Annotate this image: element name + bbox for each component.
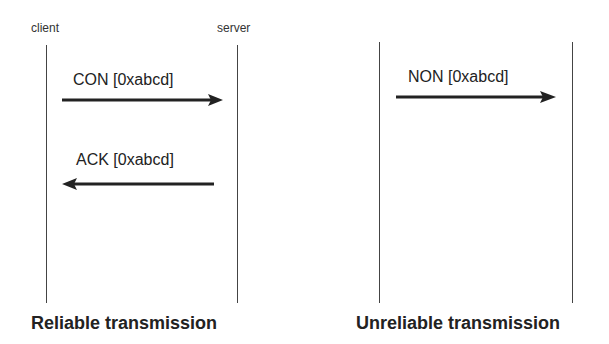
client-lifeline <box>46 45 47 303</box>
server-lifeline <box>237 45 238 303</box>
reliable-caption: Reliable transmission <box>31 313 217 334</box>
con-message-label: CON [0xabcd] <box>73 71 173 89</box>
right-arrow-icon <box>60 93 225 107</box>
server-lifeline <box>572 42 573 303</box>
client-lifeline <box>379 42 380 303</box>
actor-client-label: client <box>31 21 59 35</box>
ack-message-label: ACK [0xabcd] <box>76 151 174 169</box>
right-arrow-icon <box>394 90 559 104</box>
unreliable-caption: Unreliable transmission <box>356 313 560 334</box>
non-message-label: NON [0xabcd] <box>408 68 508 86</box>
left-arrow-icon <box>60 177 218 191</box>
actor-server-label: server <box>217 21 250 35</box>
